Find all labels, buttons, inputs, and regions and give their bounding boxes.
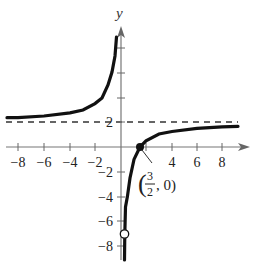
x-tick-label: 6 [194, 155, 201, 170]
hole-open-circle [120, 230, 128, 238]
point-leader-line [142, 150, 152, 163]
y-tick-label: −8 [98, 239, 113, 254]
y-tick-label: −6 [98, 214, 113, 229]
y-tick-label: −2 [98, 165, 113, 180]
x-tick-label: −8 [11, 155, 26, 170]
x-tick-label: 4 [169, 155, 176, 170]
svg-text:, 0): , 0) [156, 177, 176, 194]
y-axis-label: y [114, 5, 123, 21]
graph-canvas: y −8 −6 −4 −2 4 6 8 2 −2 −4 −6 −8 ( 3 2 … [0, 0, 254, 265]
left-branch-curve [7, 37, 117, 118]
x-tick-label: 8 [219, 155, 226, 170]
svg-text:2: 2 [147, 185, 153, 199]
svg-text:3: 3 [147, 169, 153, 183]
x-tick-label: −6 [37, 155, 52, 170]
y-tick-label: −4 [98, 190, 113, 205]
y-tick-label: 2 [106, 115, 113, 130]
x-tick-label: −4 [63, 155, 78, 170]
x-intercept-point [136, 143, 144, 151]
point-label: ( 3 2 , 0) [138, 169, 176, 199]
